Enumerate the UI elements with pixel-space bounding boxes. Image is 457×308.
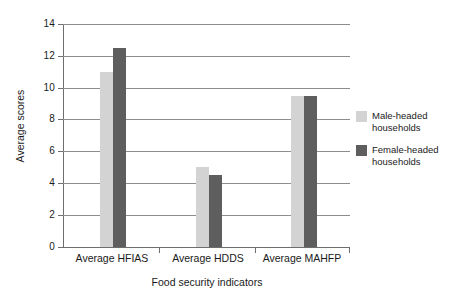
x-tick-label-hfias: Average HFIAS — [64, 252, 160, 264]
bar-male-mahfp[interactable] — [291, 96, 304, 247]
y-tick-label-10: 10 — [33, 83, 55, 93]
y-tick-label-6: 6 — [33, 146, 55, 156]
y-tick-label-4: 4 — [33, 178, 55, 188]
y-tick-label-2: 2 — [33, 210, 55, 220]
y-axis-title: Average scores — [14, 46, 26, 206]
y-tick-label-12: 12 — [33, 51, 55, 61]
chart-figure: Average scores 14 12 10 8 6 4 2 0 — [0, 0, 457, 308]
female-swatch-icon — [356, 145, 367, 156]
y-tick-label-8: 8 — [33, 114, 55, 124]
legend-label-male-line1: Male-headed — [372, 110, 456, 122]
legend-label-male-line2: households — [372, 122, 456, 134]
male-swatch-icon — [356, 111, 367, 122]
legend-label-female-line2: households — [372, 156, 456, 168]
bar-female-hdds[interactable] — [209, 175, 222, 247]
x-axis-title: Food security indicators — [0, 276, 414, 288]
legend-item-male[interactable]: Male-headed households — [356, 110, 456, 134]
x-tick-label-hdds: Average HDDS — [160, 252, 256, 264]
y-tick-label-0: 0 — [33, 242, 55, 252]
bar-male-hfias[interactable] — [100, 72, 113, 247]
bar-female-hfias[interactable] — [113, 48, 126, 247]
bar-male-hdds[interactable] — [196, 167, 209, 247]
gridline-12 — [63, 56, 350, 57]
x-axis-line — [63, 247, 350, 248]
x-tick-label-mahfp: Average MAHFP — [254, 252, 350, 264]
gridline-14 — [63, 24, 350, 25]
bar-female-mahfp[interactable] — [304, 96, 317, 247]
plot-area — [63, 24, 350, 247]
legend-label-female-line1: Female-headed — [372, 144, 456, 156]
y-tick-label-14: 14 — [33, 19, 55, 29]
chart-legend: Male-headed households Female-headed hou… — [356, 110, 456, 178]
legend-item-female[interactable]: Female-headed households — [356, 144, 456, 168]
